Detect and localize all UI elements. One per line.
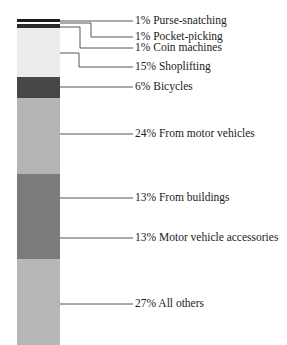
bar-segment-bicycles <box>17 77 60 98</box>
bar-segment-motor-vehicle-accessories <box>17 217 60 259</box>
leader-line <box>60 23 133 37</box>
stacked-bar <box>17 19 60 345</box>
bar-segment-shoplifting <box>17 28 60 77</box>
leader-lines <box>60 21 133 304</box>
leader-line <box>60 53 133 67</box>
bar-segment-coin-machines <box>17 24 60 28</box>
label-all-others: 27% All others <box>135 297 204 309</box>
label-coin-machines: 1% Coin machines <box>135 41 222 53</box>
bar-segment-all-others <box>17 259 60 345</box>
label-from-buildings: 13% From buildings <box>135 191 230 203</box>
bar-segment-purse-snatching <box>17 19 60 22</box>
label-bicycles: 6% Bicycles <box>135 80 193 92</box>
label-from-motor-vehicles: 24% From motor vehicles <box>135 127 255 139</box>
bar-segment-from-motor-vehicles <box>17 98 60 174</box>
label-motor-vehicle-accessories: 13% Motor vehicle accessories <box>135 231 278 243</box>
bar-segment-from-buildings <box>17 174 60 217</box>
label-shoplifting: 15% Shoplifting <box>135 60 211 72</box>
label-purse-snatching: 1% Purse-snatching <box>135 14 227 26</box>
bar-segment-pocket-picking <box>17 22 60 24</box>
